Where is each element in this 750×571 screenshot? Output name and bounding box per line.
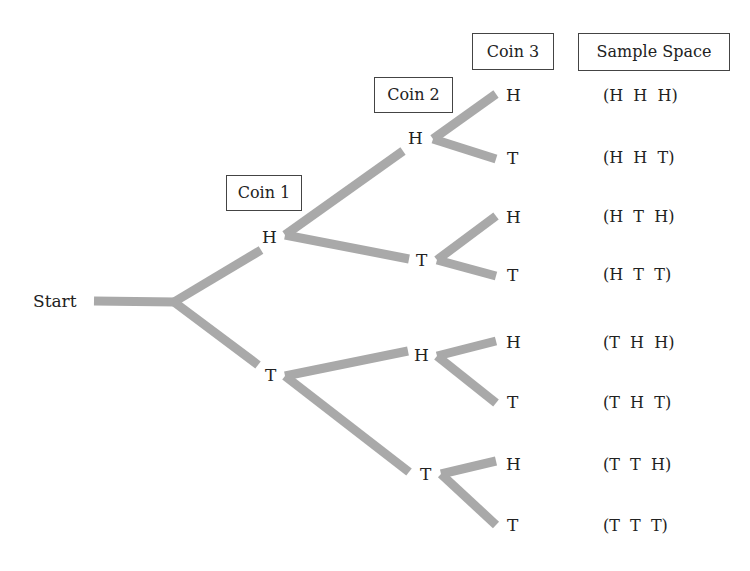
branch-coin2-hh <box>285 151 403 235</box>
coin3-node-3: H <box>506 209 521 226</box>
coin1-header-text: Coin 1 <box>238 185 291 201</box>
coin3-header: Coin 3 <box>472 33 554 70</box>
coin3-node-7: H <box>506 456 521 473</box>
outcome-4: (H T T) <box>603 267 671 283</box>
branch-coin2-ht <box>285 235 409 259</box>
branch-coin1-t <box>174 302 258 365</box>
outcome-5: (T H H) <box>603 335 674 351</box>
coin3-node-4: T <box>507 267 518 284</box>
sample-space-header-text: Sample Space <box>597 44 712 60</box>
branch-coin3-5 <box>437 341 496 356</box>
outcome-3: (H T H) <box>603 209 674 225</box>
coin3-node-2: T <box>507 150 518 167</box>
branch-coin1-h <box>174 250 261 302</box>
outcome-8: (T T T) <box>603 518 668 534</box>
start-label: Start <box>33 293 77 310</box>
coin2-header: Coin 2 <box>374 77 453 113</box>
outcome-6: (T H T) <box>603 395 671 411</box>
branch-coin3-2 <box>433 139 496 159</box>
coin2-node-1: H <box>408 130 423 147</box>
coin3-node-6: T <box>507 394 518 411</box>
coin3-node-1: H <box>506 87 521 104</box>
coin3-header-text: Coin 3 <box>487 44 540 60</box>
branch-coin3-3 <box>437 216 496 260</box>
branch-coin3-7 <box>441 461 496 474</box>
coin1-header: Coin 1 <box>226 175 302 211</box>
coin2-node-4: T <box>420 466 431 483</box>
branch-coin3-6 <box>437 356 496 403</box>
branch-coin2-th <box>285 351 408 376</box>
coin1-node-h: H <box>262 229 277 246</box>
coin2-header-text: Coin 2 <box>387 87 440 103</box>
branch-start <box>94 301 176 302</box>
outcome-7: (T T H) <box>603 457 671 473</box>
coin3-node-8: T <box>507 517 518 534</box>
coin3-node-5: H <box>506 334 521 351</box>
branch-coin3-4 <box>437 260 496 276</box>
outcome-2: (H H T) <box>603 150 674 166</box>
coin2-node-3: H <box>414 347 429 364</box>
sample-space-header: Sample Space <box>578 33 730 71</box>
branch-coin3-8 <box>441 474 496 525</box>
outcome-1: (H H H) <box>603 88 678 104</box>
coin2-node-2: T <box>416 252 427 269</box>
coin1-node-t: T <box>265 367 276 384</box>
branch-coin2-tt <box>285 376 409 472</box>
